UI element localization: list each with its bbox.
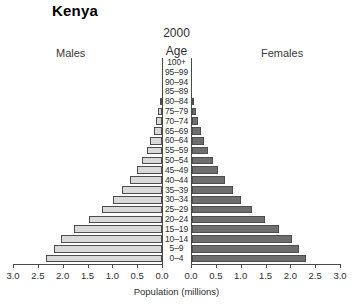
chart-subtitle-year: 2000 xyxy=(0,26,353,40)
x-tick-mark xyxy=(13,264,14,268)
x-tick-mark xyxy=(191,264,192,268)
x-tick-label: 0.5 xyxy=(209,270,222,281)
x-tick-mark xyxy=(38,264,39,268)
x-tick-mark xyxy=(88,264,89,268)
x-tick-label: 2.5 xyxy=(309,270,322,281)
x-tick-mark xyxy=(290,264,291,268)
x-tick-label: 2.0 xyxy=(56,270,69,281)
pyramid-row: 0–4 xyxy=(0,254,353,264)
x-tick-label: 1.0 xyxy=(106,270,119,281)
x-tick-label: 1.5 xyxy=(259,270,272,281)
x-tick-mark xyxy=(162,264,163,268)
x-tick-mark xyxy=(216,264,217,268)
x-tick-mark xyxy=(112,264,113,268)
x-tick-label: 3.0 xyxy=(6,270,19,281)
chart-title: Kenya xyxy=(52,2,98,19)
x-axis: 3.02.52.01.51.00.50.00.00.51.01.52.02.53… xyxy=(0,264,353,306)
x-tick-label: 0.0 xyxy=(155,270,168,281)
x-tick-label: 1.0 xyxy=(234,270,247,281)
age-tick-label: 0–4 xyxy=(0,254,353,264)
x-tick-label: 0.5 xyxy=(131,270,144,281)
x-tick-mark xyxy=(266,264,267,268)
plot-area: 100+95–9990–9485–8980–8475–7970–7465–696… xyxy=(0,58,353,264)
x-tick-mark xyxy=(63,264,64,268)
x-tick-label: 3.0 xyxy=(333,270,346,281)
x-tick-mark xyxy=(340,264,341,268)
x-tick-label: 2.5 xyxy=(31,270,44,281)
x-tick-label: 2.0 xyxy=(284,270,297,281)
axis-label-age: Age xyxy=(0,44,353,58)
x-tick-mark xyxy=(241,264,242,268)
x-axis-label: Population (millions) xyxy=(0,286,353,297)
x-tick-label: 0.0 xyxy=(184,270,197,281)
population-pyramid-chart: Kenya 2000 Males Females Age 100+95–9990… xyxy=(0,0,353,306)
x-tick-mark xyxy=(315,264,316,268)
x-tick-mark xyxy=(137,264,138,268)
x-tick-label: 1.5 xyxy=(81,270,94,281)
